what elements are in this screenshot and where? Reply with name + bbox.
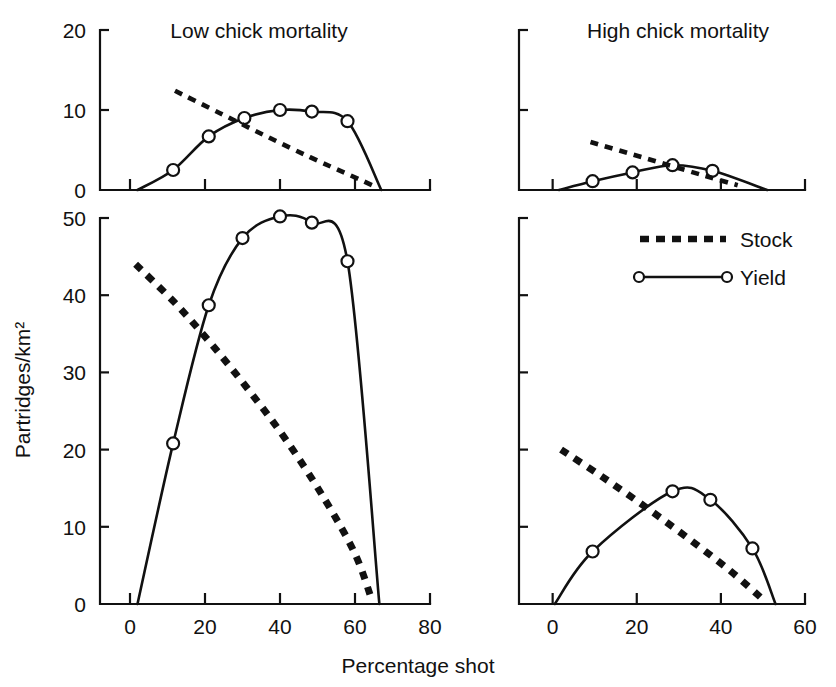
data-point-marker <box>274 210 286 222</box>
data-point-marker <box>167 437 179 449</box>
y-tick-label-bottom-left-0: 0 <box>74 593 86 616</box>
panel-top-left: 01020 <box>63 19 430 202</box>
series-stock-bottom-left <box>136 264 372 600</box>
data-point-marker <box>587 546 599 558</box>
data-point-marker <box>203 299 215 311</box>
panel-title-low-mortality: Low chick mortality <box>170 19 348 42</box>
series-stock-top-right <box>591 142 738 185</box>
y-tick-label-bottom-left-10: 10 <box>63 516 86 539</box>
x-tick-label-bottom-right-40: 40 <box>709 615 732 638</box>
legend-swatch-yield-marker-left-icon <box>634 272 644 282</box>
legend-label-stock: Stock <box>740 228 793 251</box>
x-axis-title: Percentage shot <box>342 654 495 677</box>
y-axis-title: Partridges/km² <box>11 322 34 459</box>
panel-title-high-mortality: High chick mortality <box>587 19 770 42</box>
data-point-marker <box>627 166 639 178</box>
data-point-marker <box>342 115 354 127</box>
panels-layer: 01020010203040500204060800204060 <box>63 19 817 638</box>
data-point-marker <box>587 175 599 187</box>
x-tick-label-bottom-left-40: 40 <box>268 615 291 638</box>
series-stock-bottom-right <box>561 450 763 600</box>
figure-root: 01020010203040500204060800204060 Low chi… <box>0 0 836 687</box>
series-yield-bottom-right <box>555 488 776 604</box>
x-tick-label-bottom-right-20: 20 <box>625 615 648 638</box>
x-tick-label-bottom-left-80: 80 <box>418 615 441 638</box>
data-point-marker <box>746 542 758 554</box>
y-tick-label-top-left-10: 10 <box>63 99 86 122</box>
y-tick-label-top-left-20: 20 <box>63 19 86 42</box>
panel-bottom-left: 01020304050020406080 <box>63 207 442 638</box>
x-tick-label-bottom-left-60: 60 <box>343 615 366 638</box>
data-point-marker <box>167 164 179 176</box>
legend-entry-stock: Stock <box>640 228 793 251</box>
data-point-marker <box>274 104 286 116</box>
data-point-marker <box>306 106 318 118</box>
data-point-marker <box>306 217 318 229</box>
data-point-marker <box>704 494 716 506</box>
axis-spine-top-left <box>100 30 430 190</box>
y-tick-label-bottom-left-40: 40 <box>63 284 86 307</box>
y-tick-label-top-left-0: 0 <box>74 179 86 202</box>
partridge-yield-figure: 01020010203040500204060800204060 Low chi… <box>0 0 836 687</box>
x-tick-label-bottom-right-60: 60 <box>793 615 816 638</box>
x-tick-label-bottom-right-0: 0 <box>547 615 559 638</box>
series-yield-bottom-left <box>138 215 380 604</box>
legend-swatch-yield-marker-right-icon <box>722 272 732 282</box>
data-point-marker <box>203 130 215 142</box>
x-tick-label-bottom-left-20: 20 <box>193 615 216 638</box>
panel-top-right <box>519 30 805 190</box>
data-point-marker <box>342 255 354 267</box>
y-tick-label-bottom-left-30: 30 <box>63 361 86 384</box>
legend-entry-yield: Yield <box>634 266 786 289</box>
x-tick-label-bottom-left-0: 0 <box>124 615 136 638</box>
data-point-marker <box>667 485 679 497</box>
data-point-marker <box>237 232 249 244</box>
y-tick-label-bottom-left-50: 50 <box>63 207 86 230</box>
legend-label-yield: Yield <box>740 266 786 289</box>
y-tick-label-bottom-left-20: 20 <box>63 439 86 462</box>
chart-legend: Stock Yield <box>634 228 793 289</box>
data-point-marker <box>238 112 250 124</box>
